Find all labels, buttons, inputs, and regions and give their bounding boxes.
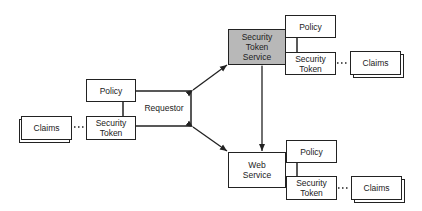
ws-label-1: Web: [248, 160, 265, 170]
sts-policy-box: Policy: [285, 15, 336, 38]
token-label-2: Token: [300, 188, 323, 198]
requestor-webservice-arrow: [193, 127, 227, 151]
policy-label: Policy: [100, 86, 123, 96]
policy-label: Policy: [300, 147, 323, 157]
sts-label-2: Token: [246, 42, 269, 52]
claims-label: Claims: [363, 58, 389, 68]
claims-label: Claims: [364, 183, 390, 193]
requestor-policy-box: Policy: [86, 79, 136, 102]
ws-label-2: Service: [243, 170, 271, 180]
token-label-2: Token: [100, 128, 123, 138]
sts-box: Security Token Service: [228, 29, 286, 65]
requestor-claims-box: Claims: [21, 116, 72, 140]
requestor-sts-arrow: [193, 65, 227, 90]
sts-label-3: Service: [243, 52, 271, 62]
claims-label: Claims: [34, 123, 60, 133]
ws-security-token-box: Security Token: [286, 176, 337, 200]
sts-label-1: Security: [242, 32, 273, 42]
ws-policy-box: Policy: [286, 140, 337, 163]
sts-security-token-box: Security Token: [285, 52, 336, 75]
requestor-security-token-box: Security Token: [86, 116, 136, 140]
token-label-1: Security: [295, 54, 326, 64]
token-label-1: Security: [296, 178, 327, 188]
token-label-2: Token: [299, 64, 322, 74]
web-service-box: Web Service: [228, 152, 286, 188]
requestor-label: Requestor: [138, 103, 190, 113]
token-label-1: Security: [96, 118, 127, 128]
ws-claims-box: Claims: [351, 176, 402, 200]
policy-label: Policy: [299, 22, 322, 32]
sts-claims-box: Claims: [350, 51, 401, 75]
